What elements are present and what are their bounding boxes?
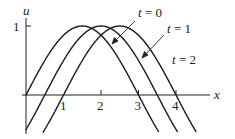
label-t2: t = 2 (172, 52, 196, 67)
curve-t0 (26, 26, 159, 132)
curve-t1 (26, 26, 178, 132)
x-tick-label-2: 2 (97, 98, 104, 113)
curve-t2 (43, 26, 196, 133)
x-tick-label-3: 3 (135, 98, 142, 113)
x-tick-label-4: 4 (172, 98, 179, 113)
label-t1: t = 1 (167, 21, 191, 36)
y-axis-label: u (23, 3, 30, 18)
label-t0: t = 0 (138, 5, 162, 20)
x-axis-label: x (213, 87, 220, 102)
label-t0-rest: = 0 (142, 5, 162, 20)
x-tick-label-1: 1 (60, 98, 67, 113)
wave-curves (26, 26, 197, 133)
y-tick-label-1: 1 (13, 19, 20, 34)
plot-area: u x 1 1 2 3 4 t = 0 t = 1 t = 2 (0, 0, 235, 139)
